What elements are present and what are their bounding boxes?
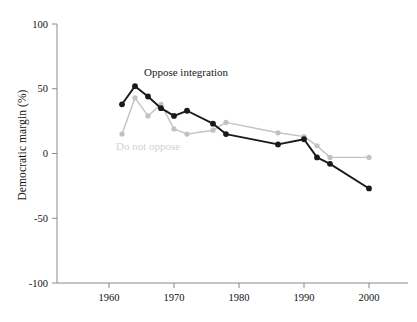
data-point xyxy=(327,161,333,167)
data-point xyxy=(223,131,229,137)
series-layer xyxy=(119,83,372,191)
data-point xyxy=(366,186,372,192)
data-point xyxy=(145,113,150,118)
y-axis-ticks: 100500-50-100 xyxy=(29,19,57,289)
series-label-oppose-integration: Oppose integration xyxy=(144,66,229,78)
y-tick-label: -100 xyxy=(29,278,48,289)
chart-plot-area: 100500-50-100 19601970198019902000 Do no… xyxy=(0,0,417,322)
series-line xyxy=(122,86,369,188)
y-tick-label: 50 xyxy=(38,83,49,94)
data-point xyxy=(171,113,177,119)
data-point xyxy=(171,126,176,131)
x-axis-ticks: 19601970198019902000 xyxy=(99,283,380,303)
data-point xyxy=(314,154,320,160)
data-point xyxy=(223,120,228,125)
data-point xyxy=(158,105,164,111)
data-point xyxy=(119,101,125,107)
series-oppose-integration xyxy=(119,83,372,191)
data-point xyxy=(119,131,124,136)
data-point xyxy=(275,130,280,135)
x-tick-label: 2000 xyxy=(359,292,380,303)
y-tick-label: -50 xyxy=(34,213,48,224)
data-point xyxy=(184,131,189,136)
y-tick-label: 0 xyxy=(43,148,48,159)
y-tick-label: 100 xyxy=(32,19,48,30)
x-tick-label: 1990 xyxy=(294,292,315,303)
x-tick-label: 1960 xyxy=(99,292,120,303)
data-point xyxy=(275,142,281,148)
data-point xyxy=(210,128,215,133)
data-point xyxy=(132,95,137,100)
chart-figure: Democratic margin (%) 100500-50-100 1960… xyxy=(0,0,417,322)
data-point xyxy=(132,83,138,89)
x-tick-label: 1970 xyxy=(164,292,185,303)
data-point xyxy=(327,155,332,160)
data-point xyxy=(314,143,319,148)
x-tick-label: 1980 xyxy=(229,292,250,303)
data-point xyxy=(184,108,190,114)
data-point xyxy=(301,136,307,142)
series-label-do-not-oppose: Do not oppose xyxy=(116,140,180,152)
data-point xyxy=(366,155,371,160)
data-point xyxy=(145,94,151,100)
data-point xyxy=(210,121,216,127)
